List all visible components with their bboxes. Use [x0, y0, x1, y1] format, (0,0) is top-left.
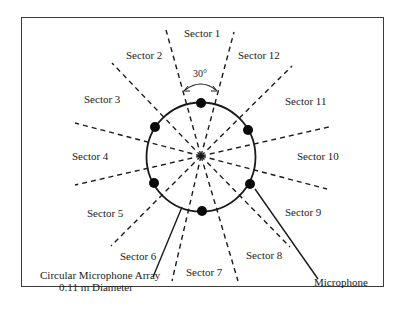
sector-12-label: Sector 12 [238, 49, 280, 61]
boundary-line [201, 32, 234, 156]
sector-4-label: Sector 4 [72, 150, 108, 162]
sector-2-label: Sector 2 [126, 49, 162, 61]
boundary-line [201, 156, 238, 281]
angle-label: 30° [193, 68, 207, 80]
microphone-dot [196, 98, 206, 108]
sector-1-label: Sector 1 [184, 27, 220, 39]
sector-9-label: Sector 9 [285, 206, 321, 218]
sector-10-label: Sector 10 [297, 150, 339, 162]
sector-7-label: Sector 7 [186, 266, 222, 278]
microphone-leader-line [255, 189, 318, 279]
array-label-line1: Circular Microphone Array [40, 269, 152, 281]
boundary-line [172, 156, 201, 281]
microphone-dot [149, 178, 159, 188]
microphone-dot [245, 179, 255, 189]
array-leader-line [153, 207, 182, 277]
boundary-line [166, 30, 201, 156]
angle-arc [185, 84, 216, 90]
sector-11-label: Sector 11 [285, 95, 326, 107]
microphone-dot [197, 206, 207, 216]
boundary-line [201, 66, 292, 156]
microphone-label: Microphone [314, 276, 368, 288]
boundary-line [111, 156, 201, 246]
microphone-dot [150, 122, 160, 132]
microphone-dot [243, 125, 253, 135]
sector-6-label: Sector 6 [120, 250, 156, 262]
array-label-line2: 0.11 m Diameter [40, 281, 152, 293]
sector-8-label: Sector 8 [246, 249, 282, 261]
array-label: Circular Microphone Array 0.11 m Diamete… [40, 269, 152, 293]
sector-5-label: Sector 5 [87, 207, 123, 219]
sector-3-label: Sector 3 [84, 93, 120, 105]
